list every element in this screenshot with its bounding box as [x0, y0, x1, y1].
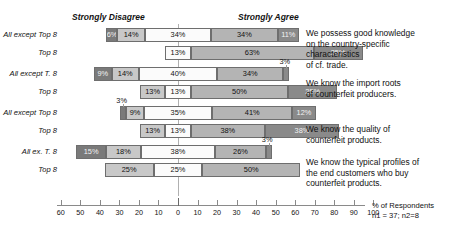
row-category-text: Top 8: [38, 126, 57, 135]
statement-text: We possess good knowledge on the country…: [306, 28, 451, 70]
row-category-text: Top 8: [38, 87, 57, 96]
bar-segment: 40%: [139, 67, 217, 81]
bar-segment: [266, 145, 272, 159]
axis-tick: [80, 200, 81, 206]
axis-tick-label: 30: [109, 208, 129, 217]
axis-tick: [295, 200, 296, 206]
axis-tick: [276, 200, 277, 206]
axis-tick-label: 60: [285, 208, 305, 217]
row-category-text: All except T. 8: [10, 69, 57, 78]
axis-tick-label: 90: [344, 208, 364, 217]
axis-tick: [198, 200, 199, 206]
bar-segment: 34%: [217, 67, 283, 81]
segment-callout-label: 3%: [279, 57, 290, 66]
axis-tick: [139, 200, 140, 206]
statement-text: We know the quality of counterfeit produ…: [306, 124, 451, 145]
axis-tick: [334, 200, 335, 206]
bar-segment: 34%: [211, 28, 277, 42]
axis-tick: [178, 198, 179, 206]
axis-tick-label: 40: [246, 208, 266, 217]
row-category-text: All ex. T. 8: [22, 147, 57, 156]
chart-row: All except Top 83%9%35%41%12%: [0, 106, 453, 121]
bar-segment: 9%: [94, 67, 112, 81]
bar-segment: 25%: [154, 163, 203, 177]
bar-segment: 50%: [202, 163, 300, 177]
likert-chart: Strongly Disagree Strongly Agree All exc…: [0, 0, 453, 233]
segment-callout-label: 3%: [262, 135, 273, 144]
axis-tick-label: 20: [129, 208, 149, 217]
bar-segment: 15%: [76, 145, 105, 159]
axis-tick-label: 70: [305, 208, 325, 217]
axis-line: [57, 205, 365, 206]
bar-segment: 11%: [278, 28, 299, 42]
bar-segment: 18%: [106, 145, 141, 159]
anchor-label-strongly-disagree: Strongly Disagree: [72, 12, 145, 22]
axis-tick: [354, 200, 355, 206]
bar-segment: 34%: [145, 28, 211, 42]
axis-tick: [119, 200, 120, 206]
axis-tick-label: 20: [207, 208, 227, 217]
bar-segment: 14%: [112, 67, 139, 81]
axis-tick-label: 40: [90, 208, 110, 217]
axis-tick-label: 60: [51, 208, 71, 217]
segment-callout-leader: [286, 65, 287, 68]
bar-segment: 38%: [141, 145, 215, 159]
axis-tick: [237, 200, 238, 206]
statement-text: We know the typical profiles of the end …: [306, 157, 451, 189]
row-category-text: All except Top 8: [3, 30, 57, 39]
bar-segment: 12%: [292, 106, 315, 120]
axis-tick: [217, 200, 218, 206]
row-category-text: Top 8: [38, 48, 57, 57]
segment-callout-leader: [269, 143, 270, 146]
bar-segment: 13%: [165, 85, 190, 99]
axis-caption: % of Respondents n1 = 37; n2=8: [372, 201, 434, 221]
axis-tick-label: 10: [148, 208, 168, 217]
axis-tick-label: 50: [70, 208, 90, 217]
axis-tick: [61, 200, 62, 206]
axis-tick-label: 30: [227, 208, 247, 217]
bar-segment: 14%: [117, 28, 144, 42]
bar-segment: 35%: [144, 106, 212, 120]
axis-tick-label: 10: [188, 208, 208, 217]
bar-segment: 13%: [140, 85, 165, 99]
bar-segment: 9%: [126, 106, 144, 120]
bar-segment: 63%: [191, 46, 314, 60]
anchor-label-strongly-agree: Strongly Agree: [238, 12, 299, 22]
bar-segment: 25%: [105, 163, 154, 177]
bar-segment: 50%: [191, 85, 289, 99]
axis-tick: [100, 200, 101, 206]
bar-segment: 13%: [165, 46, 190, 60]
axis-tick: [315, 200, 316, 206]
bar-segment: 13%: [165, 124, 190, 138]
row-category-text: Top 8: [38, 165, 57, 174]
bar-segment: 13%: [140, 124, 165, 138]
x-axis: 6050403020100102030405060708090100 % of …: [0, 196, 453, 233]
bar-segment: 26%: [215, 145, 266, 159]
axis-tick: [158, 200, 159, 206]
bar-segment: 38%: [191, 124, 265, 138]
axis-tick-label: 50: [266, 208, 286, 217]
axis-tick-label: 80: [324, 208, 344, 217]
statement-text: We know the import roots of counterfeit …: [306, 78, 451, 99]
row-category-text: All except Top 8: [3, 108, 57, 117]
bar-segment: [283, 67, 289, 81]
segment-callout-label: 3%: [116, 96, 127, 105]
segment-callout-leader: [123, 104, 124, 107]
axis-tick: [256, 200, 257, 206]
axis-tick-label: 0: [168, 208, 188, 217]
bar-segment: 41%: [212, 106, 292, 120]
bar-segment: 6%: [106, 28, 118, 42]
